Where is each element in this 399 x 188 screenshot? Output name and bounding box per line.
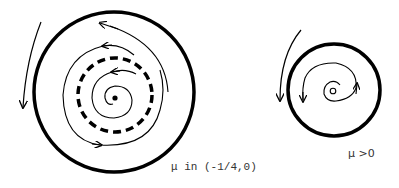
right-caption: μ >0 [348,147,375,160]
phase-portrait-diagram [0,0,399,188]
trajectory-inner-spiral [92,70,136,118]
trajectory-between-cycles [63,45,163,145]
left-phase-portrait [23,12,194,172]
stable-limit-cycle-left [34,12,194,172]
trajectory-right-spiral [303,63,356,101]
right-phase-portrait [280,30,380,136]
stable-focus-dot [112,95,117,100]
unstable-focus-open [330,88,336,94]
unstable-limit-cycle-dashed [78,58,152,132]
left-caption: μ in (-1/4,0) [171,161,257,173]
outer-incoming-arrow-right [280,30,301,100]
trajectory-outer-inner [110,26,168,92]
stable-limit-cycle-right [288,44,380,136]
